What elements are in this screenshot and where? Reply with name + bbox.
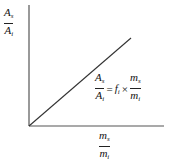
y-label-numerator: A [4, 6, 11, 18]
equation-rhs: ms mi [130, 72, 141, 105]
times-sign: × [122, 83, 128, 95]
x-label-numerator: m [99, 129, 107, 141]
x-axis-label: ms mi [99, 130, 110, 163]
y-axis-label: As Ai [4, 7, 13, 40]
equation: As Ai = fi × ms mi [95, 72, 141, 105]
equation-lhs: As Ai [95, 72, 104, 105]
equals-sign: = [106, 83, 112, 95]
diagram-canvas [0, 0, 177, 165]
factor: fi [115, 82, 120, 96]
